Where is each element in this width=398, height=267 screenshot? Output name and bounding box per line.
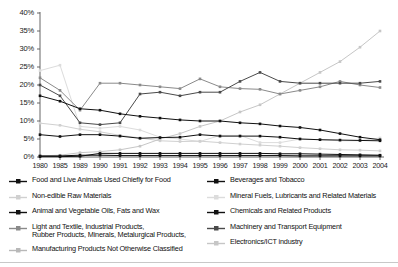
legend-item-label: Animal and Vegetable Oils, Fats and Wax	[32, 207, 159, 216]
legend-marker-icon	[8, 246, 28, 255]
legend-marker-icon	[8, 208, 28, 217]
legend-marker-icon	[206, 208, 226, 217]
x-axis-tick-label: 1989	[69, 161, 91, 170]
x-axis-tick-label: 2002	[329, 161, 351, 170]
line-chart-svg	[0, 0, 398, 170]
y-axis-tick-label: 35%	[8, 26, 34, 35]
legend-item-label: Mineral Fuels, Lubricants and Related Ma…	[230, 192, 376, 201]
chart-legend: Food and Live Animals Used Chiefly for F…	[0, 176, 398, 267]
series-line	[39, 122, 382, 152]
y-axis-tick-label: 0%	[8, 152, 34, 161]
legend-item-label: Food and Live Animals Used Chiefly for F…	[32, 176, 171, 185]
legend-marker-icon	[206, 193, 226, 202]
x-axis-tick-label: 2000	[289, 161, 311, 170]
legend-column-left: Food and Live Animals Used Chiefly for F…	[8, 176, 204, 261]
chart-figure: 0%5%10%15%20%25%30%35%40%198019851989199…	[0, 0, 398, 267]
legend-column-right: Beverages and TobaccoMineral Fuels, Lubr…	[206, 176, 398, 254]
y-axis-tick-label: 25%	[8, 62, 34, 71]
legend-marker-icon	[8, 177, 28, 186]
series-line	[39, 95, 382, 142]
x-axis-tick-label: 2001	[309, 161, 331, 170]
legend-item-label: Electronics/ICT industry	[230, 238, 303, 247]
legend-item-label: Chemicals and Related Products	[230, 207, 331, 216]
y-axis-tick-label: 5%	[8, 134, 34, 143]
legend-item[interactable]: Non-edible Raw Materials	[8, 192, 204, 202]
legend-item-label: Manufacturing Products Not Otherwise Cla…	[32, 245, 183, 254]
y-axis-tick-label: 40%	[8, 8, 34, 17]
legend-item-label: Beverages and Tobacco	[230, 176, 304, 185]
legend-item-label: Light and Textile, Industrial Products, …	[32, 223, 186, 240]
x-axis-tick-label: 1995	[189, 161, 211, 170]
legend-marker-icon	[206, 224, 226, 233]
legend-item[interactable]: Mineral Fuels, Lubricants and Related Ma…	[206, 192, 398, 202]
legend-marker-icon	[206, 239, 226, 248]
chart-plot-area: 0%5%10%15%20%25%30%35%40%198019851989199…	[0, 0, 398, 170]
series-line	[39, 71, 382, 126]
legend-item[interactable]: Chemicals and Related Products	[206, 207, 398, 217]
y-axis-tick-label: 30%	[8, 44, 34, 53]
x-axis-tick-label: 1994	[169, 161, 191, 170]
legend-item[interactable]: Manufacturing Products Not Otherwise Cla…	[8, 245, 204, 255]
x-axis-tick-label: 1998	[249, 161, 271, 170]
legend-item[interactable]: Light and Textile, Industrial Products, …	[8, 223, 204, 240]
x-axis-tick-label: 1980	[29, 161, 51, 170]
y-axis-tick-label: 15%	[8, 98, 34, 107]
y-axis-tick-label: 10%	[8, 116, 34, 125]
legend-item[interactable]: Machinery and Transport Equipment	[206, 223, 398, 233]
x-axis-tick-label: 1996	[209, 161, 231, 170]
x-axis-tick-label: 2003	[349, 161, 371, 170]
x-axis-tick-label: 1990	[89, 161, 111, 170]
x-axis-tick-label: 1993	[149, 161, 171, 170]
legend-item-label: Non-edible Raw Materials	[32, 192, 111, 201]
legend-marker-icon	[8, 193, 28, 202]
series-line	[39, 77, 382, 112]
x-axis-tick-label: 1992	[129, 161, 151, 170]
legend-marker-icon	[206, 177, 226, 186]
legend-marker-icon	[8, 224, 28, 233]
x-axis-tick-label: 2004	[369, 161, 391, 170]
x-axis-tick-label: 1997	[229, 161, 251, 170]
footer-divider	[0, 262, 398, 263]
legend-item[interactable]: Electronics/ICT industry	[206, 238, 398, 248]
legend-item[interactable]: Food and Live Animals Used Chiefly for F…	[8, 176, 204, 186]
x-axis-tick-label: 1999	[269, 161, 291, 170]
legend-item-label: Machinery and Transport Equipment	[230, 223, 342, 232]
legend-item[interactable]: Beverages and Tobacco	[206, 176, 398, 186]
y-axis-tick-label: 20%	[8, 80, 34, 89]
series-line	[39, 133, 382, 142]
x-axis-tick-label: 1985	[49, 161, 71, 170]
x-axis-tick-label: 1991	[109, 161, 131, 170]
legend-item[interactable]: Animal and Vegetable Oils, Fats and Wax	[8, 207, 204, 217]
